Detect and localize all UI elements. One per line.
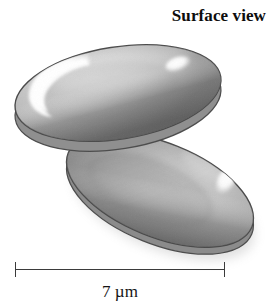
- scale-bar-tick-right: [224, 262, 225, 277]
- scale-bar-tick-left: [15, 262, 16, 277]
- upper-cell: [8, 31, 230, 164]
- figure-root: Surface view: [0, 0, 280, 308]
- scale-bar-label: 7 µm: [0, 282, 240, 302]
- scale-bar-line: [15, 269, 225, 270]
- scale-bar: 7 µm: [0, 258, 280, 308]
